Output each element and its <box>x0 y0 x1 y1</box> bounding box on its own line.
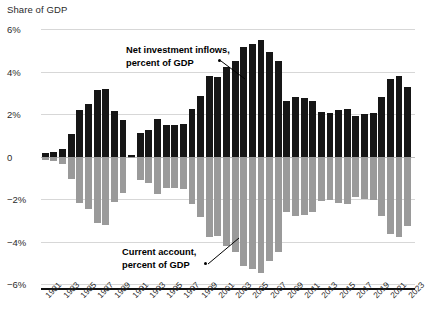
bar-net-investment-2005 <box>249 44 256 157</box>
bar-current-account-1997 <box>180 157 187 190</box>
bar-current-account-1995 <box>163 157 170 189</box>
bar-current-account-2017 <box>352 157 359 197</box>
bar-current-account-2016 <box>344 157 351 205</box>
annotation-current-leader-dot <box>204 262 207 265</box>
bar-current-account-1986 <box>85 157 92 209</box>
bar-net-investment-2015 <box>335 110 342 157</box>
y-axis-label-neg2: −2% <box>7 194 26 205</box>
bar-current-account-2013 <box>318 157 325 202</box>
annotation-net-line1: Net investment inflows, <box>126 44 230 57</box>
bar-net-investment-1994 <box>154 119 161 156</box>
bar-current-account-1984 <box>68 157 75 179</box>
annotation-current-line2: percent of GDP <box>122 259 196 272</box>
annotation-current-account: Current account, percent of GDP <box>122 246 196 271</box>
bar-current-account-2012 <box>309 157 316 212</box>
bar-net-investment-1995 <box>163 125 170 157</box>
bar-current-account-1990 <box>120 157 127 193</box>
bar-current-account-2023 <box>404 157 411 226</box>
bar-net-investment-1988 <box>102 89 109 157</box>
bar-net-investment-2017 <box>352 116 359 156</box>
bar-current-account-2002 <box>223 157 230 246</box>
bar-current-account-1983 <box>59 157 66 164</box>
bar-current-account-2001 <box>214 157 221 237</box>
bar-current-account-1987 <box>94 157 101 224</box>
bar-net-investment-2020 <box>378 97 385 157</box>
annotation-net-leader-dot <box>218 59 221 62</box>
y-axis-label-neg4: −4% <box>7 236 26 247</box>
bar-current-account-1993 <box>145 157 152 184</box>
bar-current-account-2018 <box>361 157 368 200</box>
bar-net-investment-1984 <box>68 134 75 156</box>
bar-net-investment-1996 <box>171 125 178 157</box>
y-axis-label-0: 0 <box>7 151 12 162</box>
bar-net-investment-2018 <box>361 114 368 157</box>
bar-current-account-2003 <box>232 157 239 253</box>
bar-net-investment-2021 <box>387 79 394 157</box>
bar-current-account-2021 <box>387 157 394 235</box>
bar-current-account-1996 <box>171 157 178 189</box>
bar-current-account-2008 <box>275 157 282 253</box>
bar-current-account-1992 <box>137 157 144 180</box>
bar-net-investment-2013 <box>318 112 325 157</box>
bar-current-account-2015 <box>335 157 342 204</box>
bar-current-account-1981 <box>42 157 49 160</box>
bar-net-investment-2016 <box>344 109 351 157</box>
bar-net-investment-2006 <box>258 40 265 157</box>
chart-axis-title: Share of GDP <box>7 4 67 15</box>
bar-net-investment-2004 <box>240 47 247 156</box>
bar-net-investment-1997 <box>180 124 187 157</box>
bar-current-account-1991 <box>128 157 135 158</box>
bar-current-account-2005 <box>249 157 256 270</box>
bar-current-account-1988 <box>102 157 109 225</box>
bar-net-investment-1983 <box>59 149 66 156</box>
chart-figure: Share of GDP Net investment inflows, per… <box>0 0 439 326</box>
bar-current-account-2020 <box>378 157 385 217</box>
bar-current-account-1999 <box>197 157 204 218</box>
annotation-current-line1: Current account, <box>122 246 196 259</box>
gridline-6 <box>41 29 415 30</box>
bar-current-account-1998 <box>189 157 196 205</box>
y-axis-label-neg6: −6% <box>7 279 26 290</box>
bar-current-account-2022 <box>396 157 403 238</box>
bar-current-account-2010 <box>292 157 299 217</box>
bar-net-investment-1987 <box>94 90 101 157</box>
bar-net-investment-1999 <box>197 96 204 157</box>
bar-current-account-2004 <box>240 157 247 266</box>
bar-current-account-1994 <box>154 157 161 194</box>
bar-net-investment-2002 <box>223 67 230 156</box>
bar-net-investment-2014 <box>327 113 334 157</box>
bar-net-investment-2009 <box>283 101 290 156</box>
bar-net-investment-1985 <box>76 110 83 157</box>
bar-net-investment-1992 <box>137 133 144 156</box>
bar-net-investment-2008 <box>275 61 282 157</box>
bar-net-investment-2012 <box>309 101 316 156</box>
bar-current-account-2007 <box>266 157 273 261</box>
y-axis-label-2: 2% <box>7 109 21 120</box>
bar-net-investment-2000 <box>206 76 213 157</box>
bar-current-account-1989 <box>111 157 118 203</box>
bar-net-investment-2010 <box>292 97 299 157</box>
bar-net-investment-1986 <box>85 104 92 156</box>
bar-net-investment-1990 <box>120 120 127 156</box>
bar-net-investment-2019 <box>370 113 377 157</box>
bar-current-account-1985 <box>76 157 83 204</box>
bar-current-account-2000 <box>206 157 213 238</box>
bar-net-investment-2001 <box>214 77 221 157</box>
bar-current-account-2009 <box>283 157 290 212</box>
bar-net-investment-2011 <box>301 98 308 156</box>
bar-net-investment-1993 <box>145 130 152 157</box>
y-axis-label-4: 4% <box>7 66 21 77</box>
bar-net-investment-1989 <box>111 111 118 157</box>
bar-net-investment-2007 <box>266 52 273 156</box>
bar-net-investment-2003 <box>232 61 239 157</box>
bar-current-account-1982 <box>50 157 57 161</box>
bar-net-investment-2022 <box>396 76 403 157</box>
bar-net-investment-2023 <box>404 87 411 156</box>
annotation-net-line2: percent of GDP <box>126 57 230 70</box>
annotation-net-investment-inflows: Net investment inflows, percent of GDP <box>126 44 230 69</box>
bar-net-investment-1998 <box>189 109 196 157</box>
y-axis-label-6: 6% <box>7 24 21 35</box>
bar-current-account-2014 <box>327 157 334 201</box>
bar-current-account-2019 <box>370 157 377 201</box>
bar-current-account-2011 <box>301 157 308 215</box>
